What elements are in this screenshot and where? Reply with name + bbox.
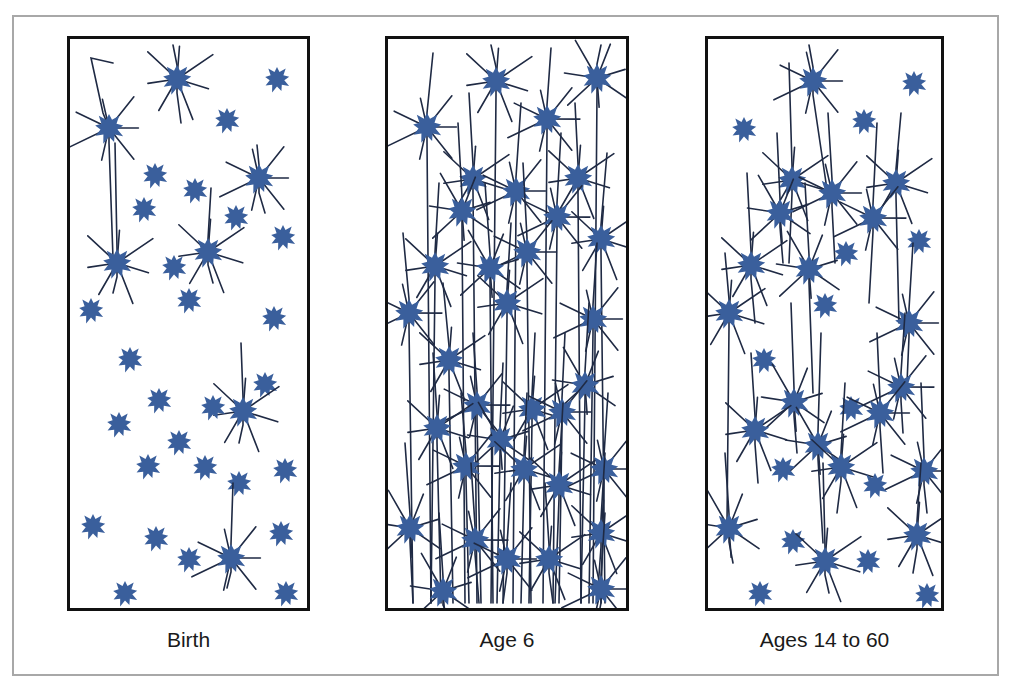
glial-cell xyxy=(907,229,931,255)
neuron-cell xyxy=(785,333,848,543)
glial-cell xyxy=(274,581,298,607)
glial-cell xyxy=(856,549,880,575)
glial-cell xyxy=(81,514,105,540)
glial-cell xyxy=(118,347,142,373)
glial-cell xyxy=(271,225,295,251)
neuron-cell xyxy=(834,123,906,303)
glial-cell xyxy=(215,108,239,134)
glial-cell xyxy=(193,455,217,481)
neuron-diagram-age-6 xyxy=(388,39,626,608)
neuron-cell xyxy=(796,463,861,601)
neuron-cell xyxy=(214,343,279,451)
label-ages-14-to-60: Ages 14 to 60 xyxy=(705,628,944,652)
neuron-cell xyxy=(722,173,787,323)
glial-cell xyxy=(201,395,225,421)
neuron-cell xyxy=(747,133,810,263)
neuron-cell xyxy=(388,53,456,603)
neuron-cell xyxy=(220,145,289,213)
neuron-cell xyxy=(708,253,765,523)
glial-cell xyxy=(132,197,156,223)
glial-cell xyxy=(732,117,756,143)
glial-cell xyxy=(752,348,776,374)
glial-cell xyxy=(748,581,772,607)
neuron-cell xyxy=(179,188,244,292)
glial-cell xyxy=(834,241,858,267)
glial-cell xyxy=(144,526,168,552)
neuron-cell xyxy=(192,483,261,590)
neuron-cell xyxy=(888,463,941,575)
neuron-cell xyxy=(88,143,153,303)
glial-cell xyxy=(253,372,277,398)
glial-cell xyxy=(269,521,293,547)
label-birth: Birth xyxy=(67,628,310,652)
glial-cell xyxy=(227,471,251,497)
glial-cell xyxy=(183,178,207,204)
glial-cell xyxy=(143,163,167,189)
panel-ages-14-to-60 xyxy=(705,36,944,611)
glial-cell xyxy=(273,458,297,484)
glial-cell xyxy=(79,298,103,324)
glial-cell xyxy=(813,293,837,319)
neuron-diagram-birth xyxy=(70,39,307,608)
glial-cell xyxy=(177,547,201,573)
glial-cell xyxy=(107,412,131,438)
glial-cell xyxy=(902,71,926,97)
neuron-cell xyxy=(793,113,862,263)
panel-birth xyxy=(67,36,310,611)
glial-cell xyxy=(177,288,201,314)
panel-age-6 xyxy=(385,36,629,611)
glial-cell xyxy=(262,306,286,332)
glial-cell xyxy=(265,67,289,93)
glial-cell xyxy=(781,529,805,555)
glial-cell xyxy=(113,581,137,607)
neuron-diagram-ages-14-to-60 xyxy=(708,39,941,608)
neuron-cell xyxy=(708,453,759,563)
neuron-cell xyxy=(148,45,213,123)
neuron-cell xyxy=(70,58,138,258)
glial-cell xyxy=(915,583,939,608)
glial-cell xyxy=(167,430,191,456)
glial-cell xyxy=(224,205,248,231)
neuron-cell xyxy=(761,303,824,453)
neuron-cell xyxy=(565,393,626,603)
glial-cell xyxy=(136,454,160,480)
neuron-cell xyxy=(477,103,546,603)
glial-cell xyxy=(147,388,171,414)
glial-cell xyxy=(162,255,186,281)
glial-cell xyxy=(852,109,876,135)
neuron-cell xyxy=(870,243,939,383)
glial-cell xyxy=(863,473,887,499)
label-age-6: Age 6 xyxy=(385,628,629,652)
